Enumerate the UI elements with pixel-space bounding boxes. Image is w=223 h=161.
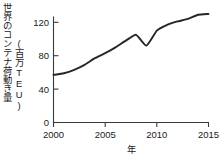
line-chart-plot: 120 80 40 0 2000 2005 2010 2015 年 [0,0,223,161]
y-tick-label-80: 80 [38,50,49,61]
x-axis-label: 年 [127,144,136,155]
y-axis-tick-labels: 120 80 40 0 [33,17,49,128]
y-axis-ticks [54,22,59,122]
x-tick-label-2010: 2010 [146,129,167,140]
chart-figure: 世界のコンテナ荷動き量 (百万TEU) 120 80 40 0 2000 [0,0,223,161]
y-tick-label-0: 0 [44,117,49,128]
data-series-line [54,14,209,75]
y-tick-label-120: 120 [33,17,49,28]
x-tick-label-2000: 2000 [43,129,64,140]
x-axis-ticks [54,123,209,128]
x-tick-label-2015: 2015 [198,129,219,140]
y-tick-label-40: 40 [38,84,49,95]
x-axis-tick-labels: 2000 2005 2010 2015 [43,129,219,140]
x-tick-label-2005: 2005 [95,129,116,140]
